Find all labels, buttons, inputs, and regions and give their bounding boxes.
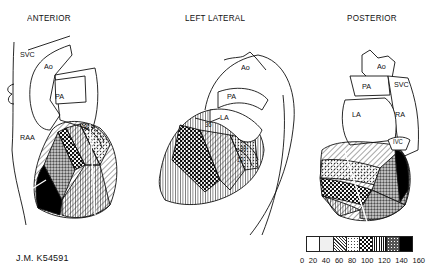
legend-bin-100-120: [373, 237, 386, 251]
posterior-heart: [320, 50, 419, 225]
label-36-anterior: 36: [82, 124, 89, 131]
label-la-posterior: LA: [352, 110, 361, 119]
label-pa-anterior: PA: [55, 92, 64, 101]
label-ao-anterior: Ao: [44, 62, 53, 71]
label-pa-lateral: PA: [227, 92, 236, 101]
legend-scale: [306, 236, 413, 252]
tick: 0: [300, 256, 304, 265]
label-ivc-posterior: IVC: [393, 138, 403, 145]
heart-diagrams: [0, 0, 428, 274]
tick: 80: [348, 256, 356, 265]
label-ao-lateral: Ao: [241, 63, 250, 72]
label-svc-anterior: SVC: [20, 50, 35, 59]
left-lateral-heart: [159, 52, 294, 235]
label-raa-anterior: RAA: [20, 133, 35, 142]
legend-ticks: 0 20 40 60 80 100 120 140 160: [300, 256, 425, 265]
label-pa-posterior: PA: [362, 82, 371, 91]
label-la-lateral: LA: [220, 113, 229, 122]
label-10-lateral: 10: [237, 156, 244, 163]
label-36-lateral: 36: [205, 121, 212, 128]
legend-bin-80-100: [360, 237, 373, 251]
tick: 100: [361, 256, 374, 265]
legend-bin-120-140: [387, 237, 400, 251]
tick: 160: [412, 256, 425, 265]
label-ra-posterior: RA: [395, 110, 405, 119]
legend-bin-0-20: [307, 237, 320, 251]
legend-bin-140-160: [400, 237, 412, 251]
patient-id: J.M. K54591: [16, 253, 69, 263]
label-ao-posterior: Ao: [377, 62, 386, 71]
tick: 20: [309, 256, 317, 265]
label-30-lateral: 30: [240, 145, 247, 152]
tick: 120: [378, 256, 391, 265]
label-svc-posterior: SVC: [394, 80, 409, 89]
legend-bin-60-80: [347, 237, 360, 251]
legend-bin-40-60: [334, 237, 347, 251]
view-title-anterior: ANTERIOR: [27, 12, 71, 23]
view-title-posterior: POSTERIOR: [347, 12, 397, 23]
view-title-left-lateral: LEFT LATERAL: [185, 12, 245, 23]
tick: 140: [395, 256, 408, 265]
anterior-heart: [8, 36, 117, 225]
legend-bin-20-40: [320, 237, 333, 251]
tick: 60: [335, 256, 343, 265]
tick: 40: [322, 256, 330, 265]
